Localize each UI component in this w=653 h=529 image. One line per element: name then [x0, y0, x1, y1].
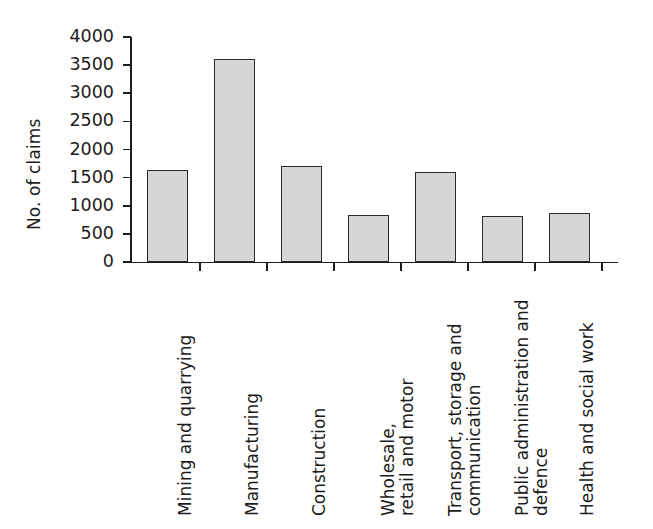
bar	[147, 170, 188, 262]
x-axis-tick-mark	[199, 262, 201, 271]
bar	[415, 172, 456, 262]
x-axis-category-label-line: communication	[465, 323, 484, 516]
x-axis-category-label-line: Wholesale,	[378, 423, 398, 516]
x-axis-tick-mark	[400, 262, 402, 271]
bar	[348, 215, 389, 262]
y-axis-tick-label: 4000	[48, 28, 114, 46]
bar	[549, 213, 590, 263]
x-axis-category-label: Construction	[310, 408, 329, 516]
bar	[214, 59, 255, 262]
y-axis-tick-label: 500	[48, 225, 114, 243]
x-axis-category-label: Transport, storage andcommunication	[446, 323, 484, 516]
x-axis-category-label: Health and social work	[578, 322, 597, 516]
bar	[482, 216, 523, 262]
x-axis-tick-mark	[601, 262, 603, 271]
plot-area	[130, 37, 618, 262]
y-axis-tick-label: 3500	[48, 56, 114, 74]
x-axis-category-label: Mining and quarrying	[176, 335, 195, 516]
bar	[281, 166, 322, 262]
x-axis-category-label-line: Health and social work	[577, 322, 597, 516]
bar-chart: No. of claims 05001000150020002500300035…	[0, 0, 653, 529]
y-axis-tick-label: 2000	[48, 141, 114, 159]
x-axis-category-label: Manufacturing	[243, 393, 262, 516]
x-axis-tick-mark	[266, 262, 268, 271]
x-axis-tick-mark	[333, 262, 335, 271]
x-axis-tick-mark	[467, 262, 469, 271]
x-axis-category-label-line: Public administration and	[512, 299, 532, 516]
y-axis-tick-label: 0	[48, 253, 114, 271]
x-axis-category-label-line: Construction	[309, 408, 329, 516]
x-axis-tick-mark	[534, 262, 536, 271]
x-axis-category-label: Wholesale,retail and motor	[379, 379, 417, 516]
x-axis-category-label-line: defence	[532, 299, 551, 516]
y-axis-tick-label: 2500	[48, 112, 114, 130]
x-axis-category-label-line: Mining and quarrying	[175, 335, 195, 516]
x-axis-category-label-line: Transport, storage and	[445, 323, 465, 516]
x-axis-category-label: Public administration anddefence	[513, 299, 551, 516]
y-axis-title: No. of claims	[24, 30, 48, 230]
x-axis-category-label-line: Manufacturing	[242, 393, 262, 516]
x-axis-category-label-line: retail and motor	[398, 379, 417, 516]
y-axis-tick-label: 1500	[48, 169, 114, 187]
y-axis-tick-label: 3000	[48, 84, 114, 102]
y-axis-tick-labels: 05001000150020002500300035004000	[48, 0, 114, 529]
y-axis-tick-label: 1000	[48, 197, 114, 215]
